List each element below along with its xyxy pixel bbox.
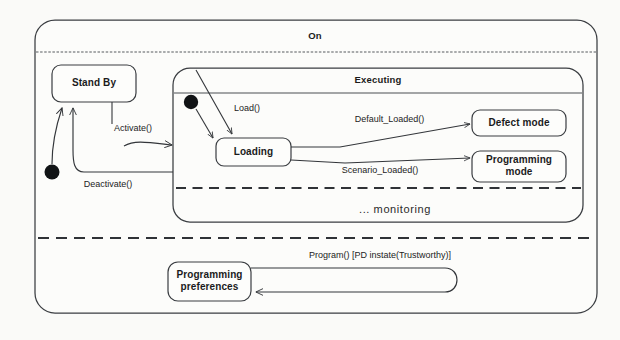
state-executing-label: Executing bbox=[328, 75, 428, 86]
outer-state-on-label: On bbox=[275, 31, 355, 42]
state-programming-mode-label: Programming mode bbox=[472, 154, 566, 178]
initial-state-on-dot bbox=[45, 165, 60, 180]
state-loading-label: Loading bbox=[216, 146, 291, 157]
transition-program-guard-label: Program() [PD instate(Trustworthy)] bbox=[280, 250, 480, 260]
uml-state-diagram-canvas: On Stand By Executing Loading Defect mod… bbox=[0, 0, 620, 340]
state-programming-preferences-label: Programming preferences bbox=[168, 269, 251, 293]
state-programming-mode-label-line2: mode bbox=[472, 166, 566, 178]
transition-default-loaded-label: Default_Loaded() bbox=[337, 114, 442, 124]
state-stand-by-label: Stand By bbox=[52, 77, 136, 88]
state-programming-preferences-label-line1: Programming bbox=[168, 269, 251, 281]
state-programming-preferences-label-line2: preferences bbox=[168, 281, 251, 293]
state-defect-mode-label: Defect mode bbox=[472, 117, 566, 128]
initial-state-executing-dot bbox=[184, 95, 198, 109]
transition-activate-label: Activate() bbox=[100, 123, 166, 133]
region-monitoring-label: ... monitoring bbox=[330, 203, 460, 215]
state-programming-mode-label-line1: Programming bbox=[472, 154, 566, 166]
transition-load-label: Load() bbox=[222, 103, 272, 113]
transition-scenario-loaded-label: Scenario_Loaded() bbox=[325, 165, 435, 175]
transition-deactivate-label: Deactivate() bbox=[68, 179, 148, 189]
